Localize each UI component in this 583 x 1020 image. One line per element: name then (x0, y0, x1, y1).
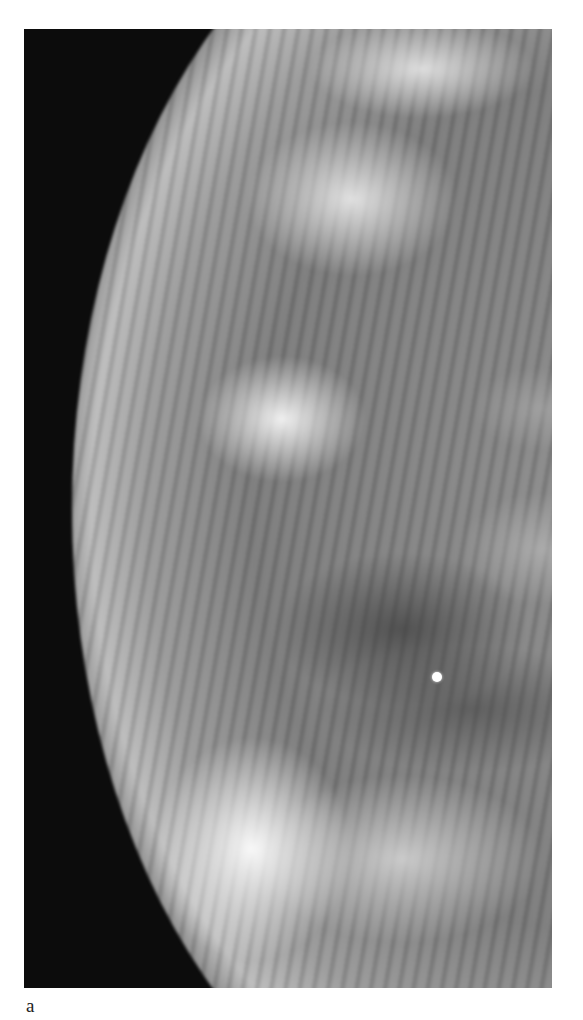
bright-marker-dot (432, 672, 442, 682)
mammogram-image (24, 29, 552, 988)
panel-label: a (26, 996, 34, 1016)
breast-tissue-region (72, 29, 552, 988)
